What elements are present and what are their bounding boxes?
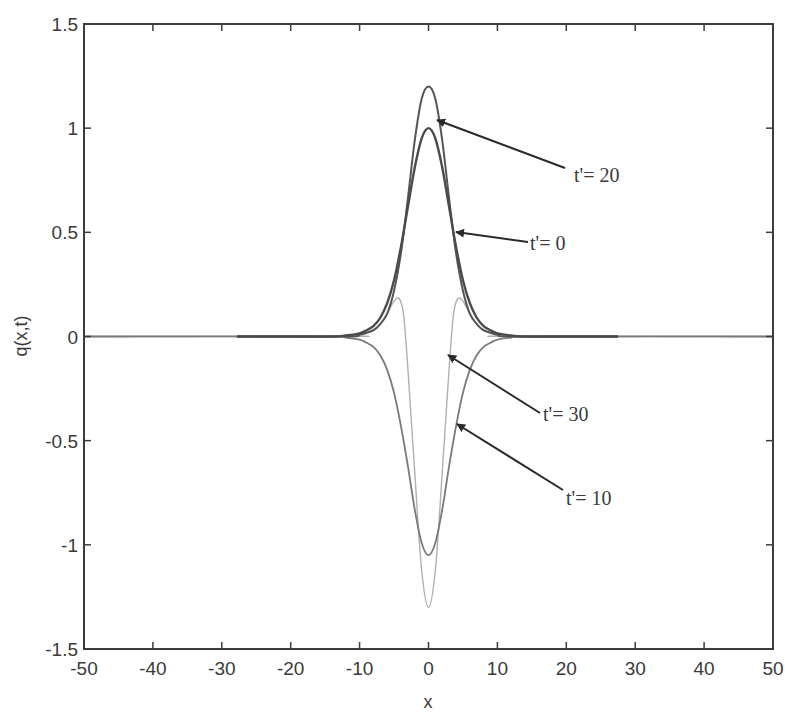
annotation-label: t'= 0 bbox=[530, 232, 565, 254]
x-tick-label: -40 bbox=[139, 658, 166, 679]
chart: -50-40-30-20-1001020304050 -1.5-1-0.500.… bbox=[0, 0, 785, 719]
annotation-label: t'= 10 bbox=[566, 487, 611, 509]
x-tick-label: -50 bbox=[70, 658, 97, 679]
y-axis-label: q(x,t) bbox=[11, 315, 31, 356]
x-tick-label: 10 bbox=[487, 658, 508, 679]
y-tick-label: -0.5 bbox=[45, 431, 78, 452]
x-tick-label: 40 bbox=[694, 658, 715, 679]
y-tick-label: -1 bbox=[61, 535, 78, 556]
x-tick-label: 50 bbox=[762, 658, 783, 679]
annotation-label: t'= 20 bbox=[574, 164, 619, 186]
x-tick-label: 0 bbox=[423, 658, 434, 679]
y-tick-label: -1.5 bbox=[45, 639, 78, 660]
y-tick-label: 1 bbox=[67, 118, 78, 139]
x-tick-label: -30 bbox=[208, 658, 235, 679]
y-tick-label: 0 bbox=[67, 327, 78, 348]
y-tick-label: 1.5 bbox=[52, 14, 78, 35]
y-tick-label: 0.5 bbox=[52, 222, 78, 243]
annotation-label: t'= 30 bbox=[543, 403, 588, 425]
x-tick-label: -10 bbox=[346, 658, 373, 679]
x-axis-label: x bbox=[424, 692, 433, 712]
x-tick-label: 20 bbox=[556, 658, 577, 679]
x-tick-label: -20 bbox=[277, 658, 304, 679]
x-tick-label: 30 bbox=[625, 658, 646, 679]
